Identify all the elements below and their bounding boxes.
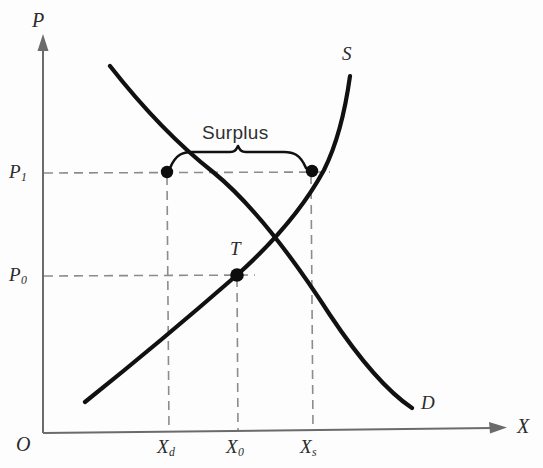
guide-price-p1 <box>44 172 330 173</box>
quantity-tick-x0-sub: 0 <box>238 446 244 459</box>
quantity-tick-xs-sub: s <box>312 446 317 459</box>
supply-curve-label: S <box>342 44 352 63</box>
quantity-tick-xs-base: X <box>300 436 312 457</box>
quantity-tick-x0-base: X <box>226 436 238 457</box>
supply-demand-figure: P X O S D T P1 P0 Xd X0 Xs Surplus <box>0 0 543 468</box>
surplus-annotation-label: Surplus <box>202 122 269 144</box>
guide-quantity-xs <box>311 175 313 429</box>
surplus-brace <box>170 146 306 168</box>
point-xs-p1 <box>306 165 318 177</box>
price-tick-p0: P0 <box>9 265 27 284</box>
guide-quantity-xd <box>167 176 169 431</box>
demand-curve <box>110 66 412 408</box>
price-tick-p1: P1 <box>9 162 27 181</box>
point-xd-p1 <box>161 166 173 178</box>
quantity-tick-x0: X0 <box>226 437 244 456</box>
equilibrium-point-label: T <box>230 239 241 258</box>
quantity-tick-xd-base: X <box>157 436 169 457</box>
point-equilibrium-t <box>230 268 244 282</box>
x-axis-label: X <box>517 416 529 436</box>
x-axis-arrow <box>489 422 507 434</box>
figure-canvas <box>0 0 543 468</box>
quantity-tick-xs: Xs <box>300 437 317 456</box>
price-tick-p1-base: P <box>9 161 21 182</box>
quantity-tick-xd: Xd <box>157 437 175 456</box>
x-axis-line <box>43 428 492 433</box>
y-axis-label: P <box>32 10 44 30</box>
y-axis-arrow <box>38 34 49 51</box>
price-tick-p0-sub: 0 <box>21 274 27 287</box>
guide-quantity-x0 <box>237 278 238 430</box>
quantity-tick-xd-sub: d <box>169 446 175 459</box>
price-tick-p0-base: P <box>9 264 21 285</box>
price-tick-p1-sub: 1 <box>21 171 27 184</box>
demand-curve-label: D <box>421 393 435 412</box>
origin-label: O <box>16 434 30 454</box>
guide-price-p0 <box>44 275 255 276</box>
